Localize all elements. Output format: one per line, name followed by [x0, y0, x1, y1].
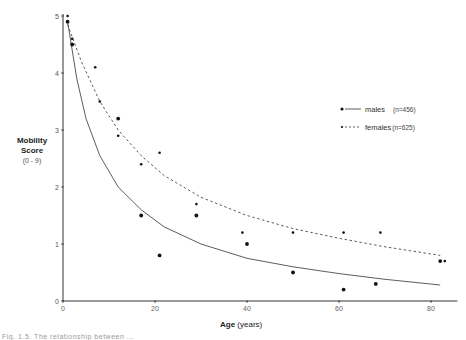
data-points: [66, 15, 446, 292]
y-tick-label: 0: [55, 298, 59, 305]
legend-males-label: males: [365, 105, 385, 114]
legend-females-n: (n=625): [392, 124, 415, 131]
females-data-point: [241, 231, 244, 234]
males-data-point: [438, 259, 442, 263]
y-tick-label: 2: [55, 184, 59, 191]
males-data-point: [70, 43, 74, 47]
legend-item-females: females (n=625): [340, 118, 416, 136]
males-fit-curve: [68, 22, 441, 285]
females-data-point: [117, 134, 120, 137]
females-data-point: [342, 231, 345, 234]
females-data-point: [140, 163, 143, 166]
males-data-point: [116, 117, 120, 121]
y-axis-label-line1: Mobility: [2, 136, 62, 146]
legend: males (n=456) females (n=625): [340, 100, 416, 136]
x-axis-label: Age (years): [220, 320, 262, 329]
males-data-point: [245, 242, 249, 246]
females-data-point: [71, 38, 74, 41]
females-data-point: [195, 203, 198, 206]
females-data-point: [379, 231, 382, 234]
y-axis-label-range: (0 - 9): [2, 156, 62, 166]
x-tick-label: 80: [427, 305, 435, 312]
males-data-point: [291, 271, 295, 275]
x-tick-label: 40: [243, 305, 251, 312]
males-data-point: [342, 288, 346, 292]
dashed-line-dot-icon: [340, 124, 362, 130]
y-tick-label: 1: [55, 241, 59, 248]
females-data-point: [94, 66, 97, 69]
females-data-point: [99, 100, 102, 103]
axes: 012345020406080: [55, 13, 457, 313]
y-tick-label: 3: [55, 127, 59, 134]
legend-females-label: females: [365, 123, 391, 132]
males-data-point: [139, 214, 143, 218]
females-data-point: [66, 15, 69, 18]
females-data-point: [444, 260, 447, 263]
fit-curves: [68, 22, 441, 285]
legend-males-n: (n=456): [393, 106, 416, 113]
legend-item-males: males (n=456): [340, 100, 416, 118]
y-axis-label: Mobility Score (0 - 9): [2, 136, 62, 166]
y-tick-label: 5: [55, 13, 59, 20]
females-data-point: [158, 152, 161, 155]
females-fit-curve: [68, 25, 441, 256]
females-data-point: [292, 231, 295, 234]
y-axis-label-line2: Score: [2, 146, 62, 156]
males-data-point: [195, 214, 199, 218]
x-tick-label: 0: [61, 305, 65, 312]
solid-line-dot-icon: [340, 106, 362, 112]
y-tick-label: 4: [55, 70, 59, 77]
scatter-plot: 012345020406080: [0, 0, 466, 340]
figure-caption: Fig. 1.5. The relationship between ...: [2, 333, 134, 340]
males-data-point: [66, 20, 70, 24]
x-axis-label-text: Age: [220, 320, 235, 329]
x-tick-label: 60: [335, 305, 343, 312]
x-tick-label: 20: [151, 305, 159, 312]
males-data-point: [158, 254, 162, 258]
males-data-point: [374, 282, 378, 286]
x-axis-label-unit: (years): [237, 320, 262, 329]
